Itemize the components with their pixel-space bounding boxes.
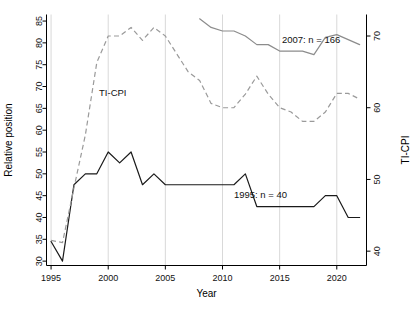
- annotations: TI-CPI1995: n = 402007: n = 166: [99, 34, 340, 200]
- series-annotation: 2007: n = 166: [282, 34, 340, 45]
- y-tick-label-left: 30: [34, 256, 44, 266]
- x-tick-label: 2020: [327, 273, 347, 283]
- axis-titles: YearRelative positionTI-CPI: [3, 103, 411, 299]
- y-axis-right: 40506070: [367, 15, 382, 266]
- x-tick-label: 1995: [41, 273, 61, 283]
- chart-container: 199520002005201020152020 303540455055606…: [0, 0, 420, 314]
- y-axis-title-right: TI-CPI: [400, 136, 411, 165]
- x-tick-label: 2005: [155, 273, 175, 283]
- y-tick-label-left: 60: [34, 125, 44, 135]
- y-tick-label-left: 40: [34, 212, 44, 222]
- y-axis-title-left: Relative position: [3, 103, 14, 176]
- y-tick-label-left: 70: [34, 82, 44, 92]
- x-axis: 199520002005201020152020: [41, 266, 366, 283]
- gridlines: [51, 15, 337, 266]
- series-line-1995-n-40: [51, 152, 360, 261]
- y-tick-label-left: 65: [34, 103, 44, 113]
- y-tick-label-left: 50: [34, 169, 44, 179]
- y-axis-left: 303540455055606570758085: [34, 15, 47, 267]
- y-tick-label-left: 35: [34, 234, 44, 244]
- y-tick-label-left: 55: [34, 147, 44, 157]
- y-tick-label-right: 40: [372, 246, 382, 256]
- y-tick-label-left: 45: [34, 191, 44, 201]
- series-annotation: TI-CPI: [99, 87, 126, 98]
- series-annotation: 1995: n = 40: [234, 189, 287, 200]
- series-lines: [51, 19, 360, 261]
- y-tick-label-right: 50: [372, 174, 382, 184]
- x-tick-label: 2015: [270, 273, 290, 283]
- series-line-ti-cpi: [51, 27, 360, 242]
- line-chart: 199520002005201020152020 303540455055606…: [0, 0, 420, 314]
- x-tick-label: 2010: [212, 273, 232, 283]
- x-axis-title: Year: [196, 288, 217, 299]
- y-tick-label-right: 60: [372, 103, 382, 113]
- y-tick-label-left: 75: [34, 60, 44, 70]
- y-tick-label-left: 80: [34, 38, 44, 48]
- x-tick-label: 2000: [98, 273, 118, 283]
- y-tick-label-left: 85: [34, 16, 44, 26]
- y-tick-label-right: 70: [372, 31, 382, 41]
